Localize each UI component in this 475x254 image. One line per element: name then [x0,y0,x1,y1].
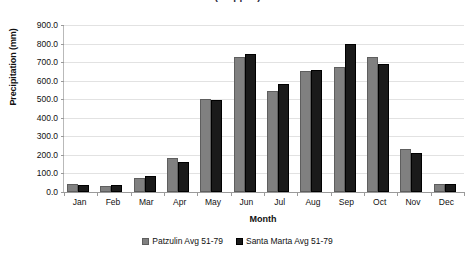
bar-group-sep [331,25,364,192]
bar-nov-series-2[interactable] [411,153,422,192]
bar-oct-series-1[interactable] [367,57,378,192]
x-axis-tick-mark [131,192,132,196]
bars-layer [64,25,464,192]
legend-label: Patzulin Avg 51-79 [152,236,223,246]
bar-apr-series-2[interactable] [178,162,189,192]
x-axis-tick-label-sep: Sep [329,197,363,207]
x-axis-title: Month [63,214,463,224]
y-axis-tick-label: 900.0 [10,20,58,30]
x-axis-tick-label-mar: Mar [129,197,163,207]
x-axis-tick-label-aug: Aug [296,197,330,207]
bar-group-may [197,25,230,192]
x-axis-tick-label-apr: Apr [163,197,197,207]
x-axis-tick-mark [64,192,65,196]
bar-group-jun [231,25,264,192]
bar-feb-series-1[interactable] [100,186,111,192]
x-axis-tick-mark [397,192,398,196]
bar-nov-series-1[interactable] [400,149,411,192]
bar-group-oct [364,25,397,192]
x-axis-tick-mark [431,192,432,196]
x-axis-tick-mark [464,192,465,196]
x-axis-tick-mark [364,192,365,196]
bar-group-dec [431,25,464,192]
bar-group-jul [264,25,297,192]
x-axis-tick-label-dec: Dec [429,197,463,207]
bar-aug-series-2[interactable] [311,70,322,192]
bar-sep-series-1[interactable] [334,67,345,192]
bar-group-mar [131,25,164,192]
x-axis-tick-label-jan: Jan [63,197,97,207]
bar-jan-series-2[interactable] [78,185,89,192]
bar-group-feb [97,25,130,192]
bar-dec-series-1[interactable] [434,184,445,192]
bar-group-jan [64,25,97,192]
x-axis-tick-mark [164,192,165,196]
legend-swatch-icon [236,238,243,245]
bar-group-aug [297,25,330,192]
bar-dec-series-2[interactable] [445,184,456,192]
y-axis-tick-label: 400.0 [10,113,58,123]
plot-area [63,25,464,193]
x-axis-tick-mark [297,192,298,196]
bar-jul-series-2[interactable] [278,84,289,192]
x-axis-tick-mark [97,192,98,196]
x-axis-tick-mark [197,192,198,196]
bar-group-nov [397,25,430,192]
y-axis-tick-label: 200.0 [10,150,58,160]
legend-label: Santa Marta Avg 51-79 [246,236,333,246]
bar-oct-series-2[interactable] [378,64,389,192]
y-axis-tick-label: 500.0 [10,94,58,104]
x-axis-tick-label-may: May [196,197,230,207]
y-axis-tick-label: 100.0 [10,168,58,178]
y-axis-tick-label: 300.0 [10,131,58,141]
bar-mar-series-2[interactable] [145,176,156,192]
x-axis-tick-label-oct: Oct [363,197,397,207]
x-axis-tick-label-feb: Feb [96,197,130,207]
bar-jun-series-2[interactable] [245,54,256,192]
chart-legend: Patzulin Avg 51-79Santa Marta Avg 51-79 [0,236,475,246]
bar-may-series-2[interactable] [211,100,222,192]
bar-may-series-1[interactable] [200,99,211,192]
bar-group-apr [164,25,197,192]
x-axis-tick-label-jul: Jul [263,197,297,207]
x-axis-tick-mark [331,192,332,196]
x-axis-tick-label-jun: Jun [229,197,263,207]
x-axis-tick-mark [231,192,232,196]
legend-entry-1[interactable]: Patzulin Avg 51-79 [142,236,223,246]
bar-jul-series-1[interactable] [267,91,278,192]
y-axis-tick-label: 800.0 [10,39,58,49]
y-axis-tick-label: 600.0 [10,76,58,86]
bar-sep-series-2[interactable] [345,44,356,192]
y-axis-tick-label: 0.0 [10,187,58,197]
legend-entry-2[interactable]: Santa Marta Avg 51-79 [236,236,333,246]
bar-feb-series-2[interactable] [111,185,122,192]
bar-jun-series-1[interactable] [234,57,245,192]
y-axis-tick-label: 700.0 [10,57,58,67]
x-axis-tick-label-nov: Nov [396,197,430,207]
chart-title: (cropped) [0,0,475,3]
precipitation-bar-chart: (cropped) Precipitation (mm) 0.0100.0200… [0,0,475,254]
bar-jan-series-1[interactable] [67,184,78,192]
legend-swatch-icon [142,238,149,245]
x-axis-tick-mark [264,192,265,196]
bar-mar-series-1[interactable] [134,178,145,192]
bar-apr-series-1[interactable] [167,158,178,192]
bar-aug-series-1[interactable] [300,71,311,192]
